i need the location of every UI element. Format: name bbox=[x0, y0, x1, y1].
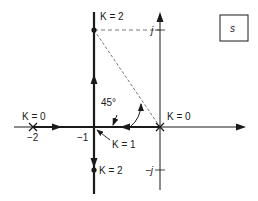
angle-label: 45° bbox=[101, 97, 116, 108]
dashed-guides bbox=[94, 30, 160, 127]
k1-label: K = 1 bbox=[112, 139, 136, 150]
k0-left-label: K = 0 bbox=[22, 111, 46, 122]
tick-neg1: −1 bbox=[77, 132, 89, 143]
k2-bottom-label: K = 2 bbox=[99, 165, 123, 176]
k2-top-label: K = 2 bbox=[100, 11, 124, 22]
tick-neg-j: −j bbox=[145, 165, 154, 176]
tick-j: j bbox=[149, 25, 154, 36]
root-locus-diagram: s K = 2 K = 2 K = 0 K = 0 K = 1 45° −2 −… bbox=[0, 0, 258, 201]
real-axis-locus bbox=[33, 124, 160, 131]
k2-bottom-point bbox=[91, 167, 96, 172]
vertical-locus bbox=[91, 12, 98, 194]
tick-neg2: −2 bbox=[27, 132, 39, 143]
imaginary-axis bbox=[157, 12, 164, 190]
angle-arc bbox=[130, 104, 141, 127]
k1-pointer bbox=[97, 130, 110, 140]
k0-right-label: K = 0 bbox=[167, 111, 191, 122]
k2-top-point bbox=[91, 27, 96, 32]
plane-label: s bbox=[230, 23, 235, 34]
